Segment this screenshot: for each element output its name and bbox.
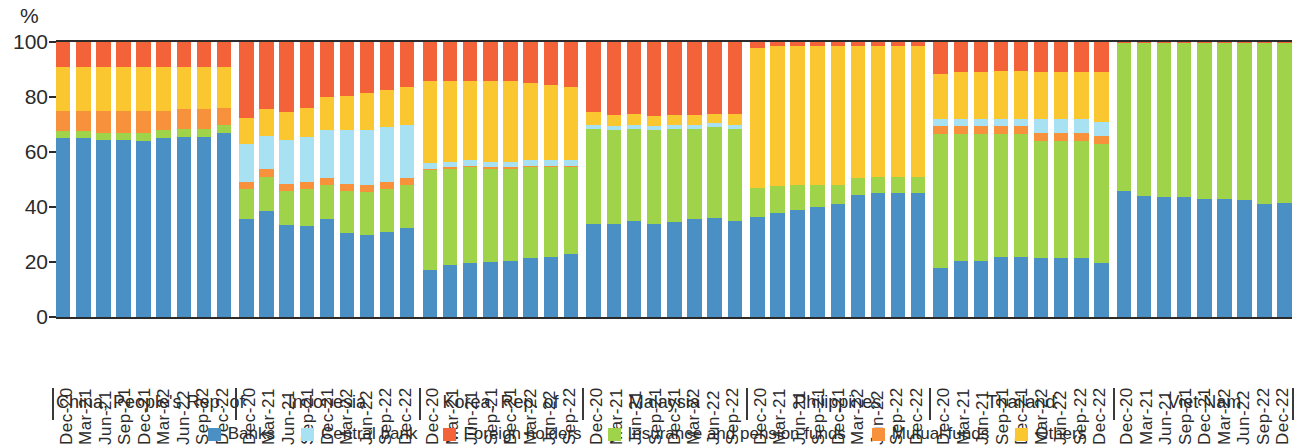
- country-panel: [1117, 42, 1292, 317]
- bar-segment: [96, 140, 110, 317]
- stacked-bar: [1074, 42, 1088, 317]
- stacked-bar: [96, 42, 110, 317]
- stacked-bar: [380, 42, 394, 317]
- bar-segment: [627, 42, 641, 114]
- bar-segment: [933, 74, 947, 119]
- bar-segment: [483, 169, 497, 263]
- bar-segment: [443, 169, 457, 265]
- bar-segment: [400, 178, 414, 185]
- bar-segment: [810, 185, 824, 207]
- bar-segment: [463, 81, 477, 161]
- y-axis-unit-label: %: [20, 4, 39, 28]
- stacked-bar: [871, 42, 885, 317]
- country-divider: [746, 388, 748, 420]
- bar-segment: [76, 111, 90, 132]
- legend-item[interactable]: Insurance and pension funds: [608, 424, 846, 444]
- bar-segment: [463, 263, 477, 317]
- bar-segment: [1237, 200, 1251, 317]
- bar-segment: [197, 67, 211, 110]
- bar-segment: [1054, 258, 1068, 317]
- bar-segment: [423, 81, 437, 164]
- legend-item[interactable]: Banks: [208, 424, 275, 444]
- bar-segment: [607, 115, 621, 126]
- bar-segment: [933, 126, 947, 134]
- bar-segment: [770, 46, 784, 186]
- bar-segment: [279, 140, 293, 184]
- stacked-bar: [217, 42, 231, 317]
- bar-segment: [116, 133, 130, 140]
- bar-segment: [687, 42, 701, 115]
- stacked-bar: [483, 42, 497, 317]
- bar-segment: [320, 97, 334, 130]
- bar-segment: [217, 67, 231, 108]
- bar-segment: [750, 217, 764, 317]
- bar-segment: [687, 129, 701, 220]
- bar-segment: [954, 119, 968, 126]
- bar-segment: [851, 178, 865, 195]
- legend-item[interactable]: Mutual funds: [872, 424, 989, 444]
- y-axis-tick-label: 100: [2, 30, 48, 54]
- bar-segment: [1157, 197, 1171, 317]
- bar-segment: [1074, 72, 1088, 119]
- legend-label: Foreign holders: [463, 424, 581, 444]
- legend-swatch-icon: [872, 428, 885, 441]
- bar-segment: [503, 42, 517, 81]
- bar-segment: [707, 127, 721, 218]
- bar-segment: [1014, 126, 1028, 134]
- country-panel: [933, 42, 1108, 317]
- legend-item[interactable]: Foreign holders: [443, 424, 581, 444]
- bar-segment: [911, 193, 925, 317]
- country-label: Malaysia: [586, 392, 742, 413]
- legend-item[interactable]: Others: [1015, 424, 1086, 444]
- bar-segment: [954, 261, 968, 317]
- bar-segment: [1014, 257, 1028, 318]
- bar-segment: [136, 141, 150, 317]
- bar-segment: [627, 129, 641, 221]
- bar-segment: [1094, 42, 1108, 72]
- stacked-bar: [259, 42, 273, 317]
- bar-segment: [197, 42, 211, 67]
- bar-segment: [116, 111, 130, 133]
- bar-segment: [1014, 134, 1028, 256]
- stacked-bar: [707, 42, 721, 317]
- bar-segment: [503, 169, 517, 261]
- bar-segment: [1034, 42, 1048, 72]
- bar-segment: [667, 42, 681, 115]
- bar-segment: [667, 222, 681, 317]
- bar-segment: [1117, 43, 1131, 190]
- bar-segment: [320, 178, 334, 185]
- bar-segment: [76, 131, 90, 138]
- y-axis-tick-mark: [49, 151, 56, 153]
- bar-segment: [1094, 136, 1108, 144]
- stacked-bar: [300, 42, 314, 317]
- bar-segment: [687, 219, 701, 317]
- stacked-bar: [423, 42, 437, 317]
- bar-segment: [1177, 197, 1191, 317]
- stacked-bar: [503, 42, 517, 317]
- stacked-bar: [607, 42, 621, 317]
- stacked-bar: [76, 42, 90, 317]
- stacked-bar: [994, 42, 1008, 317]
- bar-segment: [831, 204, 845, 317]
- bar-segment: [647, 116, 661, 126]
- bar-segment: [1157, 43, 1171, 197]
- bar-segment: [360, 192, 374, 235]
- legend-item[interactable]: Central bank: [301, 424, 417, 444]
- bar-segment: [790, 185, 804, 210]
- legend-swatch-icon: [301, 428, 314, 441]
- bar-segment: [96, 133, 110, 140]
- bar-segment: [380, 127, 394, 182]
- bar-segment: [523, 258, 537, 317]
- y-axis-tick-label: 60: [2, 140, 48, 164]
- bar-segment: [1014, 119, 1028, 126]
- legend-swatch-icon: [1015, 428, 1028, 441]
- bar-segment: [177, 42, 191, 67]
- bar-segment: [707, 42, 721, 114]
- bar-segment: [156, 138, 170, 317]
- x-axis-line: [56, 317, 1292, 319]
- bar-segment: [564, 167, 578, 254]
- bar-segment: [1094, 144, 1108, 264]
- bar-segment: [1034, 119, 1048, 133]
- bar-segment: [136, 42, 150, 67]
- bar-segment: [279, 112, 293, 140]
